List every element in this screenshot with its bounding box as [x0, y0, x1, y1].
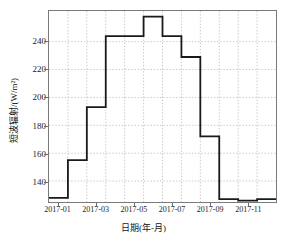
- y-axis-title: 短波辐射/(W/m²): [10, 41, 19, 181]
- y-tick-label: 240: [6, 36, 46, 45]
- y-tick-label: 140: [6, 177, 46, 186]
- data-series-shortwave-radiation: [49, 11, 276, 202]
- x-tick-mark: [134, 203, 135, 207]
- y-tick-mark: [44, 126, 48, 127]
- x-tick-label: 2017-09: [197, 206, 224, 214]
- plot-area: [48, 10, 277, 203]
- x-tick-mark: [96, 203, 97, 207]
- x-tick-mark: [172, 203, 173, 207]
- y-tick-mark: [44, 41, 48, 42]
- x-tick-mark: [210, 203, 211, 207]
- x-tick-label: 2017-07: [159, 206, 186, 214]
- x-tick-mark: [248, 203, 249, 207]
- y-tick-mark: [44, 154, 48, 155]
- y-tick-label: 200: [6, 93, 46, 102]
- y-tick-label: 160: [6, 149, 46, 158]
- x-tick-mark: [58, 203, 59, 207]
- y-tick-label: 220: [6, 65, 46, 74]
- x-tick-label: 2017-11: [235, 206, 261, 214]
- y-tick-mark: [44, 69, 48, 70]
- y-tick-mark: [44, 97, 48, 98]
- chart-figure: 短波辐射/(W/m²) 2402202001801601402017-01201…: [0, 0, 287, 242]
- x-tick-label: 2017-03: [82, 206, 109, 214]
- x-tick-label: 2017-05: [121, 206, 148, 214]
- y-tick-label: 180: [6, 121, 46, 130]
- x-tick-label: 2017-01: [44, 206, 71, 214]
- x-axis-title: 日期(年-月): [0, 224, 287, 233]
- y-tick-mark: [44, 182, 48, 183]
